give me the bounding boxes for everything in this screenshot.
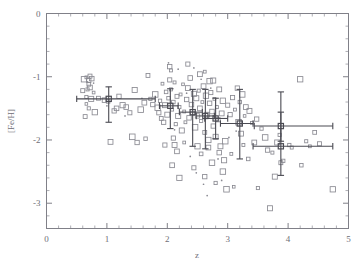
y-tick-label: 0 <box>36 9 41 19</box>
x-tick-label: 5 <box>346 234 351 244</box>
scatter-dot <box>195 172 197 174</box>
x-tick-label: 3 <box>225 234 230 244</box>
scatter-dot <box>177 68 179 70</box>
x-tick-label: 1 <box>105 234 110 244</box>
x-tick-label: 4 <box>286 234 291 244</box>
scatter-dot <box>228 137 230 139</box>
x-tick-label: 0 <box>44 234 49 244</box>
plot-background <box>0 0 361 265</box>
scatter-dot <box>210 87 212 89</box>
scatter-dot <box>106 105 108 107</box>
scatter-dot <box>124 115 126 117</box>
plot-canvas: 012345 0-1-2-3 z [Fe/H] <box>0 0 361 265</box>
x-tick-label: 2 <box>165 234 170 244</box>
scatter-dot <box>200 78 202 80</box>
y-tick-label: -1 <box>33 72 41 82</box>
scatter-dot <box>93 82 95 84</box>
scatter-dot <box>193 67 195 69</box>
scatter-dot <box>235 130 237 132</box>
y-tick-label: -3 <box>33 198 41 208</box>
scatter-dot <box>186 92 188 94</box>
y-axis-title: [Fe/H] <box>6 109 16 133</box>
x-axis-title: z <box>195 250 199 260</box>
scatter-dot <box>206 195 208 197</box>
scatter-dot <box>217 158 219 160</box>
figure-scatter-plot: 012345 0-1-2-3 z [Fe/H] <box>0 0 361 265</box>
scatter-dot <box>87 81 89 83</box>
scatter-dot <box>203 183 205 185</box>
scatter-dot <box>221 180 223 182</box>
scatter-dot <box>189 156 191 158</box>
y-tick-label: -2 <box>33 135 41 145</box>
scatter-dot <box>174 129 176 131</box>
scatter-dot <box>168 62 170 64</box>
